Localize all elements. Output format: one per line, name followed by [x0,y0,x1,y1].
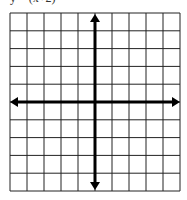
arrow-right-icon [172,97,180,107]
coordinate-grid [0,0,187,200]
axes [10,14,180,190]
arrow-down-icon [90,182,100,190]
arrow-left-icon [10,97,18,107]
arrow-up-icon [90,14,100,22]
